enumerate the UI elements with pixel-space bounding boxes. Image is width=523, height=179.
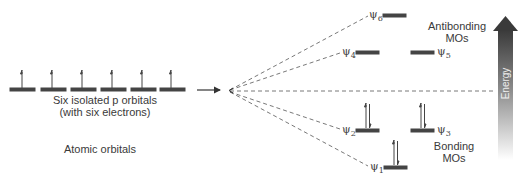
atomic-orbital-3 <box>71 70 96 91</box>
energy-axis-label: Energy <box>500 66 511 102</box>
atomic-orbital-6 <box>160 70 185 91</box>
electron-pair-psi1 <box>393 140 400 165</box>
atomic-orbital-1 <box>10 70 35 91</box>
electron-pair-psi3 <box>420 103 427 128</box>
atomic-caption-line1: Six isolated p orbitals <box>50 94 160 106</box>
atomic-orbital-5 <box>131 70 156 91</box>
antibonding-mos-label: Antibonding MOs <box>424 20 490 44</box>
mo-level-psi1 <box>384 166 407 169</box>
psi6-label: ψ6 <box>369 9 383 24</box>
mo-level-psi2 <box>356 129 379 132</box>
mo-levels <box>356 14 434 169</box>
atomic-orbital-2 <box>41 70 66 91</box>
convergence-point <box>229 88 233 93</box>
atomic-orbitals-label: Atomic orbitals <box>55 143 145 155</box>
electron-pairs <box>365 103 427 165</box>
mo-level-psi4 <box>356 51 379 54</box>
mo-level-psi6 <box>383 14 406 17</box>
atomic-caption: Six isolated p orbitals (with six electr… <box>50 94 160 118</box>
psi4-label: ψ4 <box>342 46 356 61</box>
bonding-mos-label: Bonding MOs <box>429 140 479 164</box>
atomic-caption-line2: (with six electrons) <box>50 106 160 118</box>
atomic-orbital-levels <box>10 70 185 91</box>
mo-level-psi3 <box>411 129 434 132</box>
electron-pair-psi2 <box>365 103 372 128</box>
psi2-label: ψ2 <box>342 124 356 139</box>
psi3-label: ψ3 <box>437 124 451 139</box>
psi1-label: ψ1 <box>370 161 384 176</box>
atomic-orbital-4 <box>101 70 126 91</box>
mo-level-psi5 <box>411 51 434 54</box>
psi5-label: ψ5 <box>437 46 451 61</box>
